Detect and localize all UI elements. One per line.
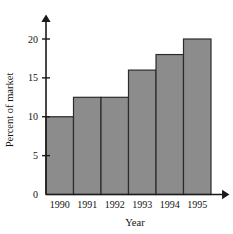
y-tick-label-20: 20 — [28, 34, 38, 45]
chart-canvas: 05101520 199019911992199319941995 Year P… — [0, 0, 233, 234]
bar-1995 — [184, 39, 212, 195]
bar-1994 — [156, 55, 184, 195]
x-tick-label-1991: 1991 — [77, 199, 97, 210]
x-tick-label-1992: 1992 — [105, 199, 125, 210]
bar-1990 — [46, 117, 74, 195]
bar-1993 — [129, 70, 157, 194]
y-axis-title: Percent of market — [4, 73, 15, 148]
bar-1992 — [101, 97, 129, 194]
y-tick-label-15: 15 — [28, 72, 38, 83]
y-tick-label-5: 5 — [33, 150, 38, 161]
x-tick-label-1994: 1994 — [160, 199, 180, 210]
y-tick-label-10: 10 — [28, 111, 38, 122]
bar-chart: 05101520 199019911992199319941995 Year P… — [0, 0, 233, 234]
x-tick-label-1995: 1995 — [187, 199, 207, 210]
x-tick-label-1990: 1990 — [50, 199, 70, 210]
x-tick-label-1993: 1993 — [132, 199, 152, 210]
x-axis-title: Year — [125, 217, 145, 228]
y-tick-label-0: 0 — [33, 189, 38, 200]
bar-1991 — [74, 97, 102, 194]
